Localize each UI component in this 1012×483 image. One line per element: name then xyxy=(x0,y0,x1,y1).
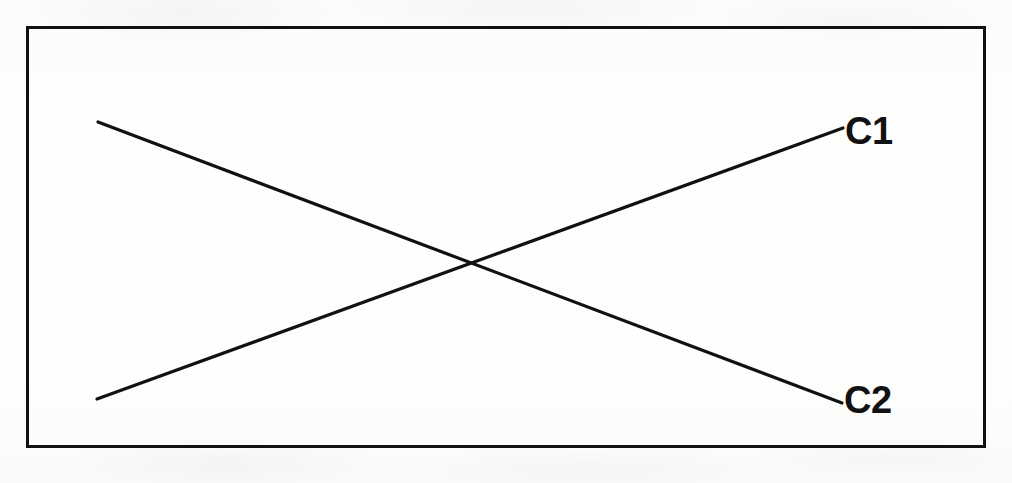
curve-line-c2 xyxy=(98,122,842,403)
figure-border-rectangle xyxy=(28,28,985,447)
curve-label-c2: C2 xyxy=(844,381,892,419)
scanned-figure-page: C1 C2 xyxy=(0,0,1012,483)
curve-label-c1: C1 xyxy=(845,112,893,150)
